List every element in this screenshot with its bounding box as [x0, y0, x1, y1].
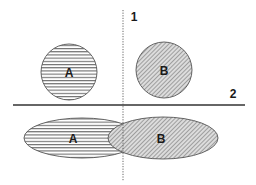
circle-b: B: [136, 42, 192, 98]
horizontal-divider-label: 2: [230, 87, 237, 101]
ellipse-b-label: B: [157, 132, 166, 146]
circle-a: A: [41, 44, 97, 100]
circle-b-label: B: [160, 64, 169, 78]
circle-a-label: A: [65, 66, 74, 80]
ellipse-a-label: A: [69, 132, 78, 146]
ellipse-b: B: [108, 117, 218, 159]
separability-diagram: A B 2 A B 1: [0, 0, 256, 185]
vertical-divider-label: 1: [131, 10, 138, 24]
